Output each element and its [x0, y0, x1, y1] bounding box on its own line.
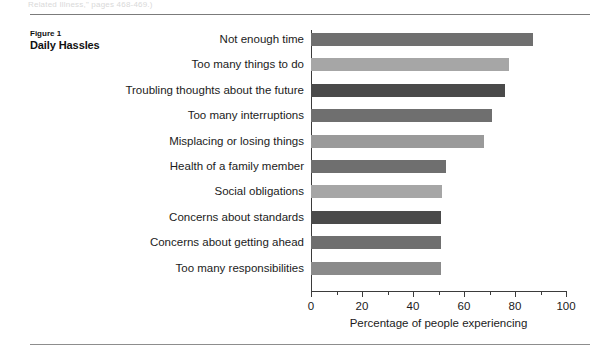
bar-row: Concerns about getting ahead [311, 233, 566, 258]
x-tick-label: 20 [356, 299, 369, 313]
x-tick-label: 0 [308, 299, 314, 313]
bar-row: Not enough time [311, 30, 566, 55]
bar-row: Misplacing or losing things [311, 132, 566, 157]
bar-row: Concerns about standards [311, 208, 566, 233]
x-tick-minor [388, 291, 389, 295]
x-tick-label: 80 [509, 299, 522, 313]
bar-category-label: Misplacing or losing things [169, 132, 304, 151]
bar [311, 211, 441, 224]
bar [311, 185, 442, 198]
bar-category-label: Not enough time [220, 30, 304, 49]
bar [311, 84, 505, 97]
bar-row: Too many responsibilities [311, 259, 566, 284]
bar-category-label: Concerns about getting ahead [150, 233, 304, 252]
x-tick-label: 100 [556, 299, 575, 313]
plot-area: Not enough timeToo many things to doTrou… [311, 30, 566, 291]
x-tick-major [515, 291, 516, 297]
bar [311, 58, 509, 71]
bar-category-label: Too many responsibilities [176, 259, 304, 278]
x-tick-minor [337, 291, 338, 295]
x-axis-title: Percentage of people experiencing [311, 317, 566, 329]
bar-chart: Not enough timeToo many things to doTrou… [0, 0, 604, 355]
bar-category-label: Concerns about standards [169, 208, 304, 227]
x-tick-major [413, 291, 414, 297]
bar-row: Too many things to do [311, 55, 566, 80]
bar-row: Troubling thoughts about the future [311, 81, 566, 106]
bar-category-label: Troubling thoughts about the future [125, 81, 304, 100]
bar-category-label: Health of a family member [170, 157, 304, 176]
x-tick-minor [490, 291, 491, 295]
bar-category-label: Social obligations [214, 182, 304, 201]
page-frame: Related Illness," pages 468-469.) Figure… [0, 0, 604, 355]
bar-row: Social obligations [311, 182, 566, 207]
x-tick-major [464, 291, 465, 297]
bar-category-label: Too many interruptions [188, 106, 304, 125]
x-tick-major [362, 291, 363, 297]
bar-row: Health of a family member [311, 157, 566, 182]
x-tick-label: 60 [458, 299, 471, 313]
bar [311, 160, 446, 173]
bar [311, 33, 533, 46]
bar [311, 236, 441, 249]
x-tick-major [566, 291, 567, 297]
bar [311, 109, 492, 122]
x-tick-label: 40 [407, 299, 420, 313]
x-tick-major [311, 291, 312, 297]
bar-row: Too many interruptions [311, 106, 566, 131]
bar [311, 262, 441, 275]
x-tick-minor [541, 291, 542, 295]
x-tick-minor [439, 291, 440, 295]
bar [311, 135, 484, 148]
bar-category-label: Too many things to do [191, 55, 304, 74]
